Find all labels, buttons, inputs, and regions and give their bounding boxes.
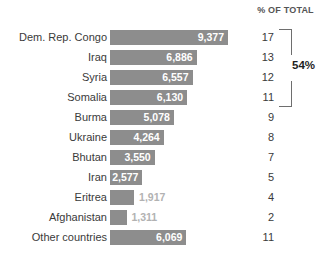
percent-of-total-value: 11 xyxy=(248,227,274,247)
row-category-label: Other countries xyxy=(0,227,107,247)
percent-of-total-value: 17 xyxy=(248,27,274,47)
row-category-label: Afghanistan xyxy=(0,207,107,227)
bar-value-label: 4,264 xyxy=(110,130,160,145)
bar-chart: % OF TOTAL Dem. Rep. Congo9,37717Iraq6,8… xyxy=(0,0,331,254)
bar xyxy=(110,210,127,225)
chart-row: Burma5,0789 xyxy=(0,107,331,127)
percent-column-header: % OF TOTAL xyxy=(240,5,331,15)
row-category-label: Iran xyxy=(0,167,107,187)
percent-of-total-value: 13 xyxy=(248,47,274,67)
bracket-arm-bottom xyxy=(279,106,292,107)
bracket-total-label: 54% xyxy=(292,59,315,71)
bar-area: 3,550 xyxy=(110,147,245,167)
bar-area: 1,311 xyxy=(110,207,245,227)
bar-area: 5,078 xyxy=(110,107,245,127)
percent-of-total-value: 7 xyxy=(248,147,274,167)
row-category-label: Ukraine xyxy=(0,127,107,147)
bracket-spine-upper xyxy=(291,29,292,55)
percent-of-total-value: 5 xyxy=(248,167,274,187)
chart-row: Iran2,5775 xyxy=(0,167,331,187)
bar-value-label: 9,377 xyxy=(110,30,224,45)
bar-value-label: 1,917 xyxy=(139,190,165,205)
bar-area: 6,130 xyxy=(110,87,245,107)
bar-area: 6,557 xyxy=(110,67,245,87)
percent-of-total-value: 12 xyxy=(248,67,274,87)
bracket-spine-lower xyxy=(291,81,292,107)
chart-row: Other countries6,06911 xyxy=(0,227,331,247)
bar-value-label: 5,078 xyxy=(110,110,170,125)
bar-value-label: 1,311 xyxy=(131,210,157,225)
bar-value-label: 6,069 xyxy=(110,230,182,245)
bar-value-label: 6,130 xyxy=(110,90,183,105)
bar-area: 6,886 xyxy=(110,47,245,67)
chart-row: Ukraine4,2648 xyxy=(0,127,331,147)
chart-row: Eritrea1,9174 xyxy=(0,187,331,207)
percent-of-total-value: 11 xyxy=(248,87,274,107)
percent-of-total-value: 8 xyxy=(248,127,274,147)
chart-row: Bhutan3,5507 xyxy=(0,147,331,167)
row-category-label: Dem. Rep. Congo xyxy=(0,27,107,47)
row-category-label: Iraq xyxy=(0,47,107,67)
bar-value-label: 3,550 xyxy=(110,150,151,165)
bar-value-label: 2,577 xyxy=(110,170,138,185)
bar-area: 2,577 xyxy=(110,167,245,187)
percent-of-total-value: 4 xyxy=(248,187,274,207)
row-category-label: Bhutan xyxy=(0,147,107,167)
row-category-label: Burma xyxy=(0,107,107,127)
bar-area: 4,264 xyxy=(110,127,245,147)
bar xyxy=(110,190,134,205)
chart-row: Afghanistan1,3112 xyxy=(0,207,331,227)
row-category-label: Syria xyxy=(0,67,107,87)
row-category-label: Eritrea xyxy=(0,187,107,207)
bar-value-label: 6,557 xyxy=(110,70,189,85)
bar-area: 9,377 xyxy=(110,27,245,47)
row-category-label: Somalia xyxy=(0,87,107,107)
bar-area: 6,069 xyxy=(110,227,245,247)
percent-of-total-value: 9 xyxy=(248,107,274,127)
bar-area: 1,917 xyxy=(110,187,245,207)
percent-of-total-value: 2 xyxy=(248,207,274,227)
bar-value-label: 6,886 xyxy=(110,50,193,65)
